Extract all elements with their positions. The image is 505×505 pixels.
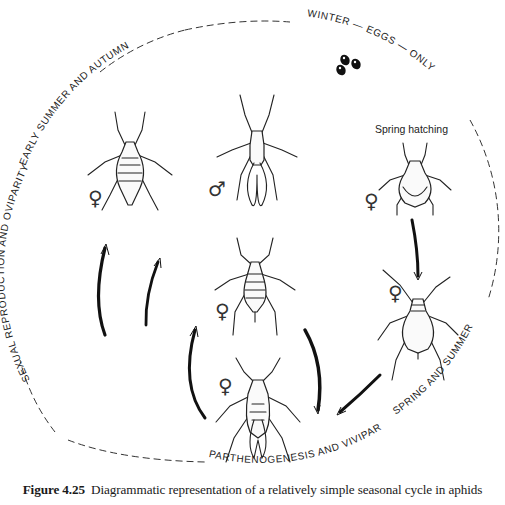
ring-label-parthenogenesis: PARTHENOGENESIS AND VIVIPARITY [0, 0, 383, 465]
spring-hatching-label: Spring hatching [375, 123, 448, 135]
female-symbol: ♀ [388, 281, 403, 305]
female-symbol: ♀ [88, 186, 103, 210]
aphid-winged-male [217, 95, 297, 206]
winter-eggs-icon [335, 53, 363, 77]
female-symbol: ♀ [364, 189, 379, 213]
aphid-seasonal-cycle-diagram: WINTER — EGGS — ONLY EARLY SUMMER AND AU… [0, 0, 505, 470]
figure-caption: Figure 4.25Diagrammatic representation o… [0, 482, 505, 498]
male-symbol: ♂ [208, 177, 226, 201]
caption-text: Diagrammatic representation of a relativ… [91, 482, 482, 497]
ring-label-sexual-reproduction: SEXUAL REPRODUCTION AND OVIPARITY [0, 162, 32, 384]
aphid-fundatrix [379, 143, 451, 215]
ring-label-early-summer-autumn: EARLY SUMMER AND AUTUMN [17, 39, 131, 166]
female-symbol: ♀ [218, 374, 233, 398]
ring-label-winter-eggs-only: WINTER — EGGS — ONLY [307, 7, 438, 73]
female-symbol: ♀ [215, 299, 230, 323]
figure-number: Figure 4.25 [23, 482, 85, 497]
